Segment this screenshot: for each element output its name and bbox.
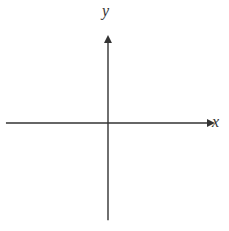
- coordinate-plane: x y: [0, 0, 229, 231]
- y-axis-label: y: [100, 2, 110, 20]
- x-axis-label: x: [211, 113, 219, 130]
